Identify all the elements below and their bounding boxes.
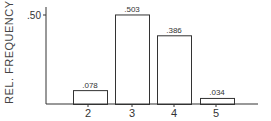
x-tick-label: 4 — [171, 107, 177, 119]
bar-2 — [74, 91, 108, 105]
bar-3 — [116, 15, 150, 105]
bar-value-label: .386 — [166, 26, 182, 35]
bar-value-label: .503 — [124, 5, 140, 14]
bar-value-labels: .078.503.386.034 — [82, 5, 225, 97]
y-tick-label: .50 — [27, 10, 41, 21]
bar-4 — [158, 36, 192, 105]
bar-chart: .502345 .078.503.386.034 — [0, 0, 271, 121]
x-tick-label: 3 — [129, 107, 135, 119]
x-tick-label: 2 — [85, 107, 91, 119]
bar-value-label: .034 — [209, 88, 225, 97]
bar-value-label: .078 — [82, 81, 98, 90]
axis-ticks: .502345 — [27, 10, 219, 120]
x-tick-label: 5 — [213, 107, 219, 119]
axes — [46, 7, 258, 104]
